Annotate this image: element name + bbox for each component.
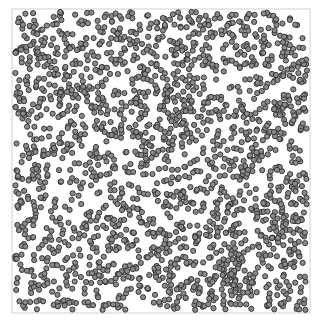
data-point xyxy=(235,174,240,179)
data-point xyxy=(139,41,144,46)
data-point xyxy=(199,208,204,213)
data-point xyxy=(100,83,105,88)
data-point xyxy=(109,19,114,24)
data-point xyxy=(50,289,55,294)
data-point xyxy=(84,36,89,41)
data-point xyxy=(66,220,71,225)
data-point xyxy=(13,70,18,75)
data-point xyxy=(15,276,20,281)
data-point xyxy=(145,68,150,73)
data-point xyxy=(143,156,148,161)
data-point xyxy=(31,144,36,149)
data-point xyxy=(38,205,43,210)
data-point xyxy=(49,228,54,233)
data-point xyxy=(113,166,118,171)
data-point xyxy=(34,137,39,142)
data-point xyxy=(91,36,96,41)
data-point xyxy=(34,307,39,312)
data-point xyxy=(204,35,209,40)
data-point xyxy=(57,140,62,145)
data-point xyxy=(154,62,159,67)
data-point xyxy=(23,300,28,305)
data-point xyxy=(31,223,36,228)
data-point xyxy=(241,158,246,163)
data-point xyxy=(255,228,260,233)
data-point xyxy=(98,172,103,177)
data-point xyxy=(197,55,202,60)
data-point xyxy=(206,100,211,105)
data-point xyxy=(26,112,31,117)
data-point xyxy=(301,171,306,176)
data-point xyxy=(300,260,305,265)
data-point xyxy=(245,247,250,252)
data-point xyxy=(267,146,272,151)
data-point xyxy=(53,67,58,72)
data-point xyxy=(163,237,168,242)
data-point xyxy=(180,48,185,53)
data-point xyxy=(36,174,41,179)
data-point xyxy=(174,287,179,292)
data-point xyxy=(49,43,54,48)
data-point xyxy=(264,285,269,290)
data-point xyxy=(253,204,258,209)
data-point xyxy=(57,103,62,108)
data-point xyxy=(32,203,37,208)
data-point xyxy=(206,302,211,307)
data-point xyxy=(217,174,222,179)
data-point xyxy=(129,243,134,248)
data-point xyxy=(252,19,257,24)
data-point xyxy=(172,22,177,27)
data-point xyxy=(78,61,83,66)
data-point xyxy=(94,118,99,123)
data-point xyxy=(81,84,86,89)
data-point xyxy=(217,113,222,118)
data-point xyxy=(275,77,280,82)
data-point xyxy=(209,110,214,115)
data-point xyxy=(226,204,231,209)
data-point xyxy=(293,160,298,165)
data-point xyxy=(160,147,165,152)
data-point xyxy=(136,74,141,79)
data-point xyxy=(138,260,143,265)
data-point xyxy=(303,307,308,312)
data-point xyxy=(19,160,24,165)
data-point xyxy=(28,132,33,137)
data-point xyxy=(92,110,97,115)
data-point xyxy=(143,112,148,117)
data-point xyxy=(245,290,250,295)
data-point xyxy=(230,196,235,201)
data-point xyxy=(93,61,98,66)
data-point xyxy=(153,73,158,78)
data-point xyxy=(13,183,18,188)
data-point xyxy=(221,139,226,144)
data-point xyxy=(169,147,174,152)
data-point xyxy=(38,56,43,61)
data-point xyxy=(200,27,205,32)
data-point xyxy=(31,274,36,279)
data-point xyxy=(123,307,128,312)
data-point xyxy=(196,17,201,22)
data-point xyxy=(273,72,278,77)
data-point xyxy=(182,164,187,169)
data-point xyxy=(73,260,78,265)
data-point xyxy=(27,59,32,64)
data-point xyxy=(213,154,218,159)
data-point xyxy=(178,201,183,206)
data-point xyxy=(215,201,220,206)
data-point xyxy=(98,280,103,285)
data-point xyxy=(304,126,309,131)
data-point xyxy=(206,23,211,28)
data-point xyxy=(213,295,218,300)
data-point xyxy=(197,91,202,96)
data-point xyxy=(296,239,301,244)
data-point xyxy=(176,294,181,299)
data-point xyxy=(13,105,18,110)
data-point xyxy=(281,215,286,220)
data-point xyxy=(47,71,52,76)
data-point xyxy=(51,14,56,19)
data-point xyxy=(267,192,272,197)
data-point xyxy=(290,75,295,80)
data-point xyxy=(101,223,106,228)
data-point xyxy=(290,153,295,158)
data-point xyxy=(278,130,283,135)
